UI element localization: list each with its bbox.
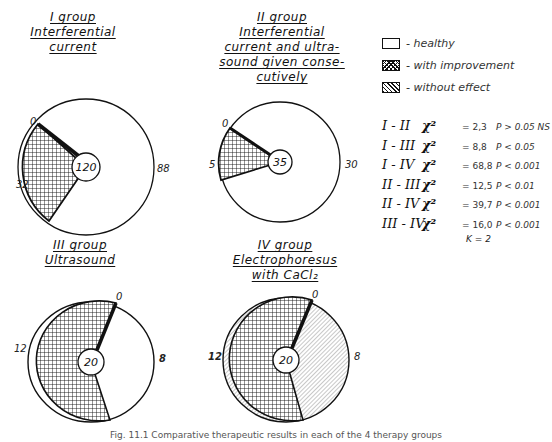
svg-text:20: 20 — [279, 354, 293, 367]
legend: - healthy - with improvement - without e… — [382, 32, 514, 98]
figure-caption: Fig. 11.1 Comparative therapeutic result… — [0, 430, 552, 440]
svg-text:0: 0 — [30, 116, 36, 127]
svg-text:32: 32 — [16, 179, 29, 190]
stat-row: III - IV χ² = 16,0 P < 0.001 — [382, 216, 550, 236]
svg-text:0: 0 — [116, 291, 122, 302]
svg-text:8: 8 — [354, 351, 360, 362]
stat-row: II - IV χ² = 39,7 P < 0.001 — [382, 196, 550, 216]
pie-group-1: 120 0 32 88 — [16, 99, 170, 235]
stat-row: I - III χ² = 8,8 P < 0.05 — [382, 138, 550, 158]
chi-square-stats: I - II χ² = 2,3 P > 0.05 NS I - III χ² =… — [382, 118, 550, 235]
healthy-swatch-icon — [382, 38, 400, 49]
improvement-swatch-icon — [382, 60, 400, 71]
svg-text:5: 5 — [209, 159, 215, 170]
svg-text:0: 0 — [222, 118, 228, 129]
pie-group-2: 35 0 5 30 — [209, 102, 358, 222]
svg-text:12: 12 — [14, 343, 27, 354]
k-label: K = 2 — [466, 234, 491, 244]
stat-row: I - II χ² = 2,3 P > 0.05 NS — [382, 118, 550, 138]
svg-text:12: 12 — [208, 351, 222, 362]
svg-text:120: 120 — [76, 161, 97, 174]
pie-group-4: 20 0 12 8 — [208, 289, 360, 422]
pie-group-3: 20 0 12 8 — [14, 291, 166, 422]
stat-row: II - III χ² = 12,5 P < 0.01 — [382, 177, 550, 197]
svg-text:35: 35 — [273, 156, 287, 169]
legend-item-no-effect: - without effect — [382, 76, 514, 98]
svg-text:8: 8 — [159, 353, 166, 364]
svg-text:0: 0 — [312, 289, 318, 300]
no-effect-swatch-icon — [382, 82, 400, 93]
svg-text:20: 20 — [84, 356, 98, 369]
stat-row: I - IV χ² = 68,8 P < 0.001 — [382, 157, 550, 177]
svg-text:88: 88 — [157, 163, 170, 174]
legend-item-improvement: - with improvement — [382, 54, 514, 76]
legend-item-healthy: - healthy — [382, 32, 514, 54]
svg-text:30: 30 — [345, 159, 358, 170]
